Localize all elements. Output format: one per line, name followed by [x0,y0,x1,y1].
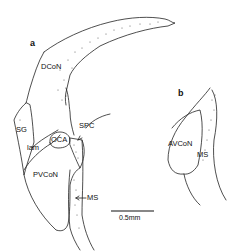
scale-bar: 0.5mm [111,211,154,221]
anatomical-diagram: a DCoN SG lam OCA SPC PVCoN MS b AVCoN M… [0,0,235,252]
dcon-inner-line [66,88,74,135]
sg-outline [14,103,34,175]
panel-b-right [212,90,226,200]
ms-pointer [76,196,86,200]
ms-strip-left [69,170,81,250]
label-sg: SG [16,125,27,134]
label-oca: OCA [51,135,67,144]
label-ms-b: MS [197,150,208,159]
panel-label-b: b [178,88,184,98]
dcon-left-edge [26,52,44,103]
label-lam: lam [27,143,39,152]
label-spc: SPC [79,121,95,130]
label-ms-a: MS [87,193,98,202]
dcon-outline [44,17,175,105]
panel-label-a: a [30,38,36,48]
spc-arrow [78,136,82,140]
panel-a: a DCoN SG lam OCA SPC PVCoN MS [14,17,175,250]
label-avcon: AVCoN [168,139,192,148]
scale-bar-label: 0.5mm [119,214,141,221]
label-dcon: DCoN [41,62,61,71]
label-pvcon: PVCoN [33,170,58,179]
panel-b: b AVCoN MS [168,88,226,205]
